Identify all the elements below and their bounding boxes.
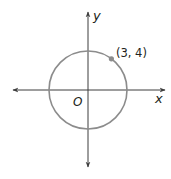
point-label: (3, 4) [116, 46, 147, 60]
coordinate-plane: y x O (3, 4) [0, 0, 171, 179]
y-axis-label: y [92, 8, 101, 23]
point-3-4 [109, 56, 114, 61]
x-axis-label: x [154, 91, 163, 106]
origin-label: O [73, 95, 82, 109]
